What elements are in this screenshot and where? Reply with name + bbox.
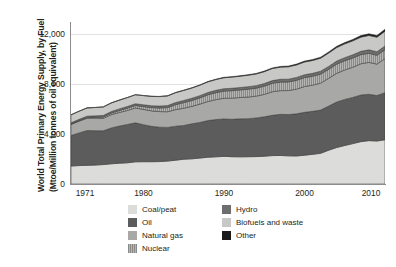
legend-column-right: HydroBiofuels and wasteOther [222,203,303,242]
legend-column-left: Coal/peatOilNatural gasNuclear [128,203,183,255]
legend-item[interactable]: Natural gas [128,229,183,242]
x-tick-label: 1990 [200,188,248,198]
x-tick-label: 1980 [119,188,167,198]
legend-label: Other [236,231,256,240]
y-tick-label: 0 [25,179,65,189]
y-tick-label: 8,000 [25,79,65,89]
x-axis-line [70,184,386,185]
legend-label: Biofuels and waste [236,218,303,227]
x-tick-label: 2000 [280,188,328,198]
x-tick-label: 1971 [61,188,109,198]
chart-legend: Coal/peatOilNatural gasNuclear HydroBiof… [128,203,378,263]
legend-item[interactable]: Coal/peat [128,203,183,216]
legend-item[interactable]: Other [222,229,303,242]
legend-swatch-icon [222,205,231,214]
legend-item[interactable]: Hydro [222,203,303,216]
legend-swatch-icon [128,244,137,253]
legend-swatch-icon [222,231,231,240]
legend-item[interactable]: Nuclear [128,242,183,255]
legend-swatch-icon [128,205,137,214]
legend-swatch-icon [222,218,231,227]
legend-label: Natural gas [142,231,183,240]
y-tick-label: 4,000 [25,129,65,139]
legend-label: Nuclear [142,244,170,253]
stacked-area-plot [71,22,385,184]
chart-figure: World Total Primary Energy Supply, by Fu… [0,0,396,267]
legend-item[interactable]: Oil [128,216,183,229]
x-tick-label: 2010 [347,188,395,198]
y-tick-label: 12,000 [25,29,65,39]
legend-label: Oil [142,218,152,227]
legend-swatch-icon [128,231,137,240]
legend-label: Hydro [236,205,257,214]
legend-swatch-icon [128,218,137,227]
legend-item[interactable]: Biofuels and waste [222,216,303,229]
legend-label: Coal/peat [142,205,176,214]
